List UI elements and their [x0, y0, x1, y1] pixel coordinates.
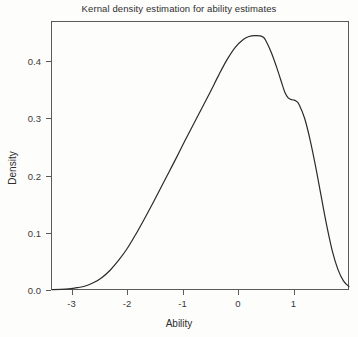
density-curve-path [52, 36, 349, 290]
y-tick-label: 0.4 [9, 56, 41, 67]
x-axis-ticks [73, 290, 295, 295]
x-tick-label: -3 [67, 298, 75, 309]
plot-frame [52, 22, 349, 290]
x-tick-label: -1 [178, 298, 186, 309]
y-tick-label: 0.0 [9, 285, 41, 296]
y-axis-label: Density [7, 133, 18, 203]
y-axis-ticks [46, 62, 51, 291]
density-plot [0, 0, 358, 337]
x-tick-label: 0 [235, 298, 240, 309]
x-tick-label: -2 [123, 298, 131, 309]
x-axis-label: Ability [0, 318, 358, 329]
y-tick-label: 0.3 [9, 113, 41, 124]
y-tick-label: 0.1 [9, 227, 41, 238]
x-tick-label: 1 [291, 298, 296, 309]
chart-screenshot: Kernal density estimation for ability es… [0, 0, 358, 337]
